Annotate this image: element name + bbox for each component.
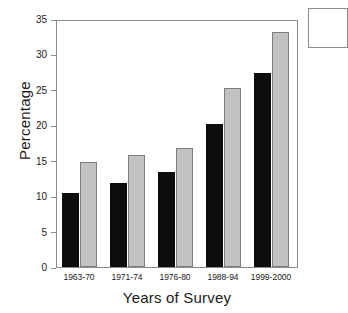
bar-light-1988-94	[224, 88, 241, 267]
bar-dark-1988-94	[206, 124, 223, 267]
bar-light-1971-74	[128, 155, 145, 267]
x-tick-label-1963-70: 1963-70	[63, 272, 94, 282]
bar-group	[254, 21, 289, 267]
y-tick-label: 15	[36, 155, 47, 168]
bar-light-1999-2000	[272, 32, 289, 267]
x-tick-label-1999-2000: 1999-2000	[251, 272, 292, 282]
y-tick-mark	[51, 161, 56, 162]
y-tick-mark	[51, 232, 56, 233]
y-tick-label: 10	[36, 190, 47, 203]
bar-group	[206, 21, 241, 267]
bar-group	[158, 21, 193, 267]
bar-group	[110, 21, 145, 267]
y-tick-label: 30	[36, 48, 47, 61]
bar-group	[62, 21, 97, 267]
x-tick-label-1988-94: 1988-94	[207, 272, 238, 282]
bar-dark-1963-70	[62, 193, 79, 267]
bar-light-1976-80	[176, 148, 193, 267]
x-tick-label-1971-74: 1971-74	[111, 272, 142, 282]
y-tick-mark	[51, 197, 56, 198]
y-tick-label: 20	[36, 119, 47, 132]
y-tick-mark	[51, 268, 56, 269]
bars-layer	[57, 21, 297, 267]
bar-dark-1976-80	[158, 172, 175, 267]
y-tick-label: 5	[41, 226, 47, 239]
x-axis-title: Years of Survey	[56, 289, 298, 306]
y-tick-mark	[51, 126, 56, 127]
y-tick-label: 0	[41, 261, 47, 274]
bar-light-1963-70	[80, 162, 97, 267]
bar-dark-1999-2000	[254, 73, 271, 267]
y-tick-mark	[51, 20, 56, 21]
y-tick-mark	[51, 90, 56, 91]
x-tick-label-1976-80: 1976-80	[159, 272, 190, 282]
y-tick-mark	[51, 55, 56, 56]
legend-box	[308, 8, 348, 48]
y-tick-label: 35	[36, 13, 47, 26]
bar-dark-1971-74	[110, 183, 127, 267]
y-axis-title: Percentage	[16, 51, 33, 191]
y-tick-label: 25	[36, 84, 47, 97]
